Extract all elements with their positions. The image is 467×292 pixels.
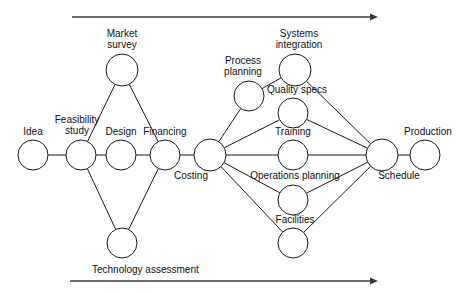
- node-feasibility-study[interactable]: [66, 140, 96, 170]
- node-label-design: Design: [105, 126, 136, 137]
- node-costing[interactable]: [194, 139, 226, 171]
- node-idea[interactable]: [18, 140, 48, 170]
- node-label-schedule: Schedule: [378, 170, 420, 181]
- node-operations-planning[interactable]: [278, 185, 308, 215]
- edge-costing-to-quality-specs: [224, 120, 279, 148]
- node-group: [18, 54, 440, 258]
- node-label-operations-planning: Operations planning: [250, 170, 340, 181]
- node-training[interactable]: [278, 140, 308, 170]
- node-technology-node[interactable]: [107, 228, 137, 258]
- node-financing[interactable]: [150, 140, 180, 170]
- node-label-idea: Idea: [23, 126, 42, 137]
- top-arrow-arrowhead: [370, 13, 378, 20]
- edge-feasibility-study-to-technology-node: [87, 169, 115, 230]
- node-label-quality-specs: Quality specs: [267, 84, 327, 95]
- node-schedule[interactable]: [366, 139, 398, 171]
- node-label-facilities: Facilities: [276, 214, 315, 225]
- node-label-market-survey: Market survey: [107, 28, 138, 50]
- node-process-planning[interactable]: [234, 81, 264, 111]
- edge-costing-to-process-planning: [219, 109, 241, 142]
- node-label-training: Training: [275, 126, 311, 137]
- node-design[interactable]: [106, 140, 136, 170]
- diagram-canvas: IdeaFeasibility studyMarket surveyDesign…: [0, 0, 467, 292]
- diagram-graphics: [0, 0, 467, 292]
- node-quality-specs[interactable]: [278, 98, 308, 128]
- edge-quality-specs-to-schedule: [307, 119, 368, 148]
- edge-technology-node-to-financing: [129, 168, 159, 229]
- node-label-feasibility-study: Feasibility study: [55, 114, 99, 136]
- node-facilities[interactable]: [278, 228, 308, 258]
- node-label-systems-integration: Systems integration: [276, 28, 323, 50]
- node-label-financing: Financing: [143, 126, 186, 137]
- node-label-costing: Costing: [174, 170, 208, 181]
- axis-label-bottom-arrow: Technology assessment: [92, 264, 199, 275]
- edge-group: [48, 78, 410, 233]
- bottom-arrow-arrowhead: [370, 277, 378, 284]
- node-systems-integration[interactable]: [279, 54, 311, 86]
- node-production[interactable]: [410, 140, 440, 170]
- node-market-survey[interactable]: [106, 54, 138, 86]
- node-label-production: Production: [404, 126, 452, 137]
- node-label-process-planning: Process planning: [224, 55, 262, 77]
